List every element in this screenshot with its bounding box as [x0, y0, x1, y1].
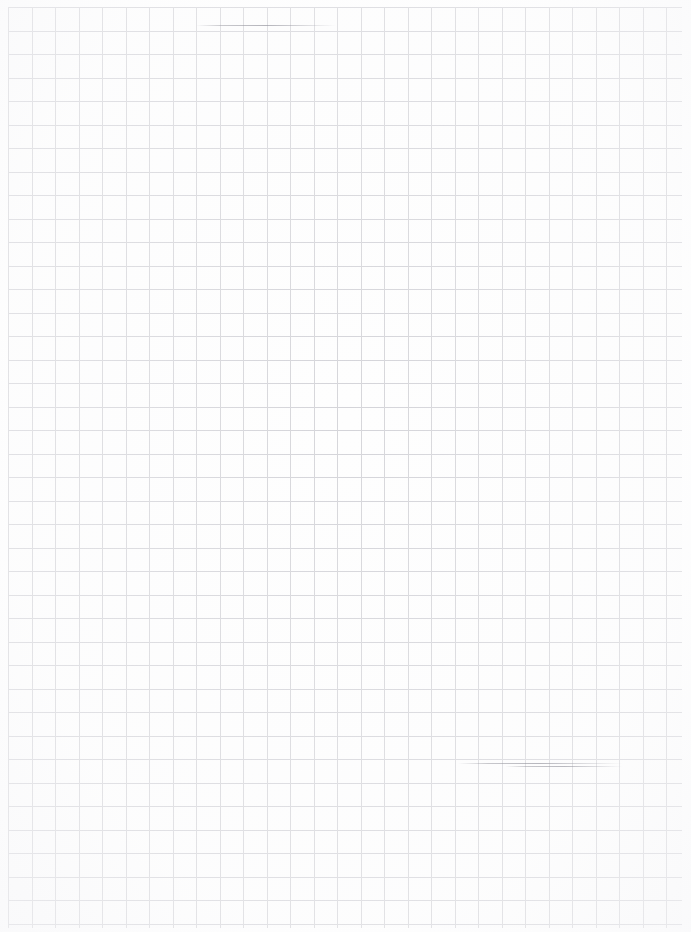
grid-paper-page [0, 0, 691, 932]
left-margin [0, 0, 8, 932]
bottom-margin [0, 928, 691, 932]
right-margin [682, 0, 691, 932]
top-margin [0, 0, 691, 7]
grid-ruling-layer [0, 0, 691, 932]
